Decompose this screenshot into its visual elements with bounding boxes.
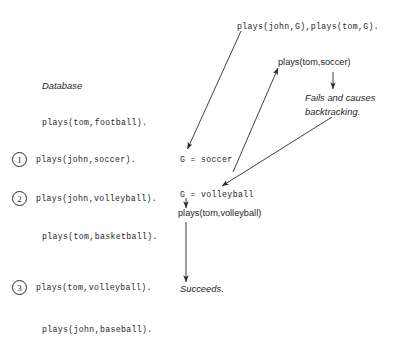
figure-canvas: Database plays(tom,football). 1 plays(jo… <box>0 0 396 351</box>
arrow-backtrack-to-binding-second <box>222 117 332 186</box>
arrow-query-to-binding-first <box>188 31 242 149</box>
arrow-binding-first-to-goal-first <box>233 68 278 172</box>
arrow-layer <box>0 0 396 351</box>
